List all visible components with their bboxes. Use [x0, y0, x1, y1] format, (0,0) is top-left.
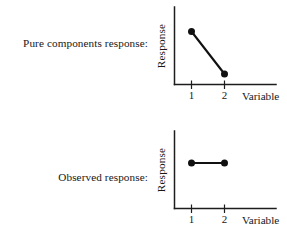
x-tick-label-1: 1: [189, 89, 195, 101]
data-point-2: [221, 71, 228, 78]
panel-caption-pure-components: Pure components response:: [0, 37, 148, 50]
panel-pure-components: Pure components response: 1 2 Variable: [0, 0, 287, 119]
two-panel-response-figure: Pure components response: 1 2 Variable: [0, 0, 287, 238]
y-axis-title: Response: [155, 148, 167, 192]
panel-caption-observed: Observed response:: [0, 171, 148, 184]
x-tick-label-1: 1: [189, 213, 195, 225]
data-point-2: [221, 160, 228, 167]
y-axis-title: Response: [155, 24, 167, 68]
x-axis-title: Variable: [242, 90, 279, 102]
x-tick-label-2: 2: [222, 89, 228, 101]
series-segment: [192, 32, 225, 75]
data-point-1: [188, 28, 195, 35]
x-tick-label-2: 2: [222, 213, 228, 225]
chart-pure-components-response: 1 2 Variable Response: [150, 0, 287, 119]
panel-observed: Observed response: 1 2 Variable: [0, 119, 287, 238]
chart-observed-response: 1 2 Variable Response: [150, 119, 287, 238]
data-point-1: [188, 160, 195, 167]
x-axis-title: Variable: [242, 214, 279, 226]
